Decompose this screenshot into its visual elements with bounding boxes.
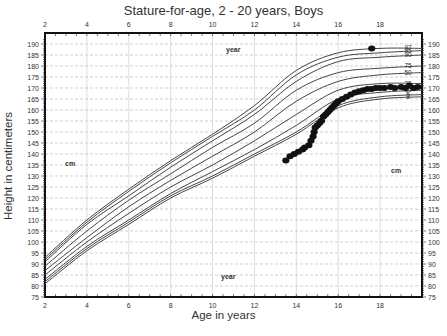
y-tick-label-right: 85 bbox=[428, 272, 436, 279]
y-tick-label-left: 125 bbox=[27, 184, 39, 191]
y-tick-label-right: 155 bbox=[428, 118, 440, 125]
x-axis-label: Age in years bbox=[0, 309, 447, 321]
y-tick-label-right: 115 bbox=[428, 206, 439, 213]
x-tick-label-bottom: 16 bbox=[334, 302, 342, 309]
x-tick-label-top: 2 bbox=[43, 21, 47, 28]
y-tick-label-left: 130 bbox=[27, 173, 39, 180]
y-tick-label-left: 165 bbox=[27, 96, 39, 103]
y-tick-label-left: 80 bbox=[31, 283, 39, 290]
y-tick-label-right: 160 bbox=[428, 107, 440, 114]
y-tick-label-right: 175 bbox=[428, 74, 440, 81]
percentile-curve-10 bbox=[45, 90, 422, 279]
year-annotation-top: year bbox=[226, 46, 240, 53]
y-tick-label-right: 145 bbox=[428, 140, 440, 147]
y-tick-label-right: 120 bbox=[428, 195, 440, 202]
x-tick-label-top: 10 bbox=[209, 21, 217, 28]
y-tick-label-right: 135 bbox=[428, 162, 440, 169]
y-tick-label-left: 75 bbox=[31, 294, 39, 301]
percentile-label-90: 90 bbox=[404, 51, 412, 58]
y-tick-label-right: 100 bbox=[428, 239, 440, 246]
percentile-curve-25 bbox=[45, 83, 422, 275]
y-tick-label-left: 135 bbox=[27, 162, 39, 169]
percentile-curve-5 bbox=[45, 95, 422, 282]
y-tick-label-right: 180 bbox=[428, 63, 440, 70]
y-tick-label-left: 95 bbox=[31, 250, 39, 257]
data-point bbox=[381, 85, 388, 91]
y-tick-label-left: 140 bbox=[27, 151, 39, 158]
y-tick-label-right: 95 bbox=[428, 250, 436, 257]
y-tick-label-left: 185 bbox=[27, 52, 39, 59]
year-annotation-bottom: year bbox=[221, 273, 235, 280]
y-tick-label-left: 90 bbox=[31, 261, 39, 268]
cm-annotation-left: cm bbox=[65, 160, 75, 167]
data-point bbox=[414, 84, 421, 90]
y-tick-label-left: 175 bbox=[27, 74, 39, 81]
y-tick-label-right: 105 bbox=[428, 228, 440, 235]
plot-area: 7575808085859090959510010010510511011011… bbox=[0, 0, 447, 336]
x-tick-label-bottom: 14 bbox=[292, 302, 300, 309]
x-tick-label-bottom: 8 bbox=[169, 302, 173, 309]
percentile-label-50: 50 bbox=[404, 69, 412, 76]
x-tick-label-top: 16 bbox=[334, 21, 342, 28]
percentile-curve-3 bbox=[45, 97, 422, 284]
y-tick-label-right: 140 bbox=[428, 151, 440, 158]
y-tick-label-left: 115 bbox=[28, 206, 39, 213]
y-tick-label-left: 145 bbox=[27, 140, 39, 147]
y-tick-label-left: 100 bbox=[27, 239, 39, 246]
y-tick-label-left: 190 bbox=[27, 41, 39, 48]
x-tick-label-bottom: 10 bbox=[209, 302, 217, 309]
percentile-curve-95 bbox=[45, 51, 422, 260]
percentile-label-3: 3 bbox=[406, 93, 410, 100]
data-point bbox=[368, 45, 375, 51]
y-tick-label-right: 185 bbox=[428, 52, 440, 59]
y-tick-label-right: 130 bbox=[428, 173, 440, 180]
y-tick-label-right: 165 bbox=[428, 96, 440, 103]
x-tick-label-top: 6 bbox=[127, 21, 131, 28]
y-tick-label-left: 120 bbox=[27, 195, 39, 202]
y-tick-label-left: 180 bbox=[27, 63, 39, 70]
y-tick-label-left: 110 bbox=[28, 217, 39, 224]
x-tick-label-bottom: 2 bbox=[43, 302, 47, 309]
y-tick-label-left: 105 bbox=[27, 228, 39, 235]
y-tick-label-right: 170 bbox=[428, 85, 440, 92]
x-tick-label-bottom: 12 bbox=[251, 302, 259, 309]
y-tick-label-right: 125 bbox=[428, 184, 440, 191]
x-tick-label-top: 18 bbox=[376, 21, 384, 28]
y-tick-label-right: 90 bbox=[428, 261, 436, 268]
y-tick-label-left: 170 bbox=[27, 85, 39, 92]
data-point bbox=[391, 85, 398, 91]
y-tick-label-left: 155 bbox=[27, 118, 39, 125]
x-tick-label-bottom: 4 bbox=[85, 302, 89, 309]
x-tick-label-top: 12 bbox=[251, 21, 259, 28]
y-tick-label-left: 150 bbox=[27, 129, 39, 136]
y-axis-label: Height in centimeters bbox=[2, 106, 14, 226]
x-tick-label-bottom: 6 bbox=[127, 302, 131, 309]
y-tick-label-right: 190 bbox=[428, 41, 440, 48]
y-tick-label-right: 150 bbox=[428, 129, 440, 136]
y-tick-label-right: 75 bbox=[428, 294, 436, 301]
x-tick-label-top: 8 bbox=[169, 21, 173, 28]
y-tick-label-right: 80 bbox=[428, 283, 436, 290]
cm-annotation-right: cm bbox=[391, 167, 401, 174]
y-tick-label-left: 85 bbox=[31, 272, 39, 279]
y-tick-label-right: 110 bbox=[428, 217, 439, 224]
x-tick-label-top: 14 bbox=[292, 21, 300, 28]
x-tick-label-top: 4 bbox=[85, 21, 89, 28]
y-tick-label-left: 160 bbox=[27, 107, 39, 114]
x-tick-label-bottom: 18 bbox=[376, 302, 384, 309]
